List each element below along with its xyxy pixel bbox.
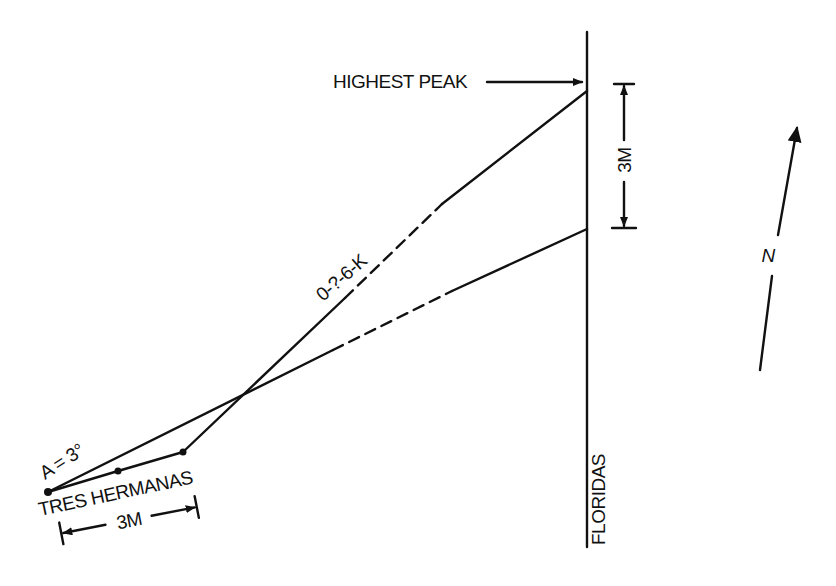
base-scale-label: 3M (115, 508, 144, 533)
north-arrow: N (760, 128, 797, 370)
diagram-canvas: 3M 3M HIGHEST PEAK 0-?-6-K A = 3° TRES H… (0, 0, 836, 586)
lower-sight-line (48, 229, 587, 492)
upper-sight-line (183, 91, 587, 452)
floridas-label: FLORIDAS (588, 454, 609, 545)
highest-peak-label: HIGHEST PEAK (333, 71, 468, 92)
north-arrow-icon (778, 128, 797, 235)
station-point (44, 488, 52, 496)
station-point (180, 449, 187, 456)
sight-line-label: 0-?-6-K (312, 249, 372, 305)
north-label: N (761, 245, 775, 266)
station-point (115, 468, 122, 475)
vertical-scale-label: 3M (614, 147, 635, 172)
vertical-scale-dimension: 3M (612, 84, 636, 228)
